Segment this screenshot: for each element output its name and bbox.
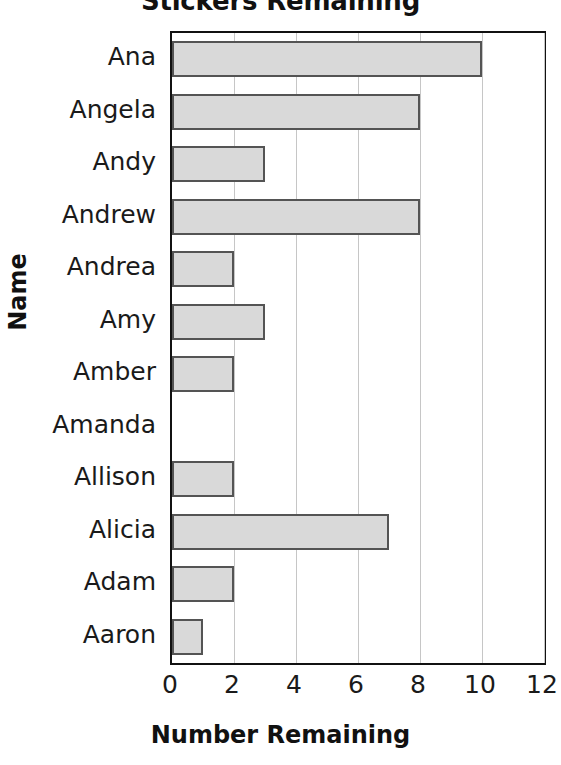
x-axis-tick-label: 4 <box>264 672 324 697</box>
bar <box>172 199 420 235</box>
bar <box>172 41 482 77</box>
bar <box>172 356 234 392</box>
y-axis-tick-label: Allison <box>74 464 156 489</box>
y-axis-tick-label: Amy <box>100 307 156 332</box>
x-axis-tick-label: 8 <box>388 672 448 697</box>
bar <box>172 251 234 287</box>
x-axis-title: Number Remaining <box>0 721 561 749</box>
plot-area <box>170 31 546 665</box>
gridline <box>544 33 545 663</box>
y-axis-tick-label: Aaron <box>83 622 156 647</box>
bar <box>172 566 234 602</box>
y-axis-tick-label: Angela <box>70 97 156 122</box>
bar <box>172 304 265 340</box>
bar <box>172 514 389 550</box>
x-axis-tick-label: 6 <box>326 672 386 697</box>
y-axis-tick-label: Amanda <box>52 412 156 437</box>
y-axis-tick-labels: AnaAngelaAndyAndrewAndreaAmyAmberAmandaA… <box>0 31 164 665</box>
y-axis-tick-label: Andy <box>92 149 156 174</box>
y-axis-tick-label: Andrew <box>62 202 156 227</box>
x-axis-tick-label: 0 <box>140 672 200 697</box>
y-axis-tick-label: Andrea <box>67 254 156 279</box>
y-axis-tick-label: Amber <box>73 359 156 384</box>
bar <box>172 461 234 497</box>
y-axis-tick-label: Alicia <box>89 517 156 542</box>
bars-layer <box>172 33 544 663</box>
y-axis-tick-label: Adam <box>84 569 156 594</box>
x-axis-tick-labels: 024681012 <box>170 672 546 712</box>
bar <box>172 94 420 130</box>
bar <box>172 619 203 655</box>
bar <box>172 146 265 182</box>
x-axis-tick-label: 2 <box>202 672 262 697</box>
y-axis-tick-label: Ana <box>108 44 156 69</box>
x-axis-tick-label: 10 <box>450 672 510 697</box>
bar-chart: Stickers Remaining Name AnaAngelaAndyAnd… <box>0 0 561 765</box>
x-axis-tick-label: 12 <box>512 672 561 697</box>
chart-title: Stickers Remaining <box>0 0 561 16</box>
